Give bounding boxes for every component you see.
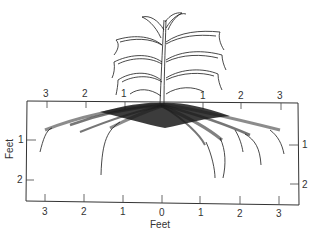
top-tick-label: 2 xyxy=(238,91,244,101)
bottom-axis-ticks xyxy=(45,194,279,204)
root-system-icon xyxy=(40,103,284,178)
diagram-canvas xyxy=(0,0,313,236)
left-tick-label: 1 xyxy=(18,135,24,145)
x-axis-title: Feet xyxy=(150,220,170,230)
top-tick-label: 1 xyxy=(121,89,127,99)
right-tick-label: 1 xyxy=(302,140,308,150)
bottom-tick-label: 3 xyxy=(276,209,282,219)
bottom-tick-label: 3 xyxy=(42,207,48,217)
top-tick-label: 3 xyxy=(43,89,49,99)
corn-plant-icon xyxy=(112,13,226,104)
top-tick-label: 2 xyxy=(82,89,88,99)
y-axis-title: Feet xyxy=(5,139,15,159)
bottom-tick-label: 2 xyxy=(237,209,243,219)
root-system-diagram: 3 2 1 1 2 3 3 2 1 0 1 2 3 1 2 1 2 Feet F… xyxy=(0,0,313,236)
top-tick-label: 3 xyxy=(277,91,283,101)
side-axis-ticks xyxy=(26,140,299,184)
left-tick-label: 2 xyxy=(17,175,23,185)
bottom-tick-label: 2 xyxy=(81,207,87,217)
bottom-tick-label: 0 xyxy=(159,208,165,218)
right-tick-label: 2 xyxy=(302,180,308,190)
bottom-tick-label: 1 xyxy=(120,207,126,217)
bottom-tick-label: 1 xyxy=(198,208,204,218)
top-tick-label: 1 xyxy=(200,91,206,101)
